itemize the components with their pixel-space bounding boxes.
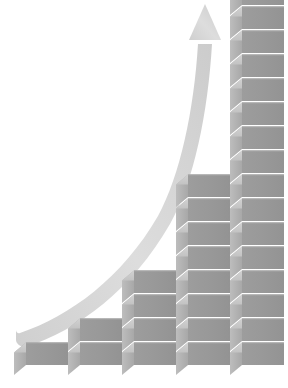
cube-front-face: [242, 223, 284, 246]
cube-front-highlight: [242, 247, 284, 248]
cube-front-highlight: [242, 55, 284, 56]
cube-front-face: [242, 295, 284, 318]
cube-front-highlight: [80, 343, 122, 344]
cube-front-face: [242, 151, 284, 174]
cube-front-highlight: [242, 79, 284, 80]
cube-front-highlight: [188, 199, 230, 200]
cube-front-face: [188, 247, 230, 270]
cube-front-face: [188, 295, 230, 318]
cube-front-face: [80, 343, 122, 366]
cube-front-highlight: [134, 343, 176, 344]
cube-front-highlight: [188, 175, 230, 176]
cube-front-highlight: [134, 271, 176, 272]
cube-front-face: [26, 343, 68, 366]
cube-front-highlight: [188, 271, 230, 272]
cube-front-face: [242, 271, 284, 294]
cube-front-highlight: [134, 319, 176, 320]
cube-front-face: [242, 103, 284, 126]
chart-canvas: [0, 0, 288, 388]
cube-front-face: [188, 175, 230, 198]
cube-front-highlight: [242, 223, 284, 224]
cube-front-face: [242, 79, 284, 102]
cube-front-highlight: [188, 343, 230, 344]
cube-front-face: [242, 343, 284, 366]
cube-front-highlight: [242, 343, 284, 344]
cube-stack: [122, 271, 176, 376]
cube-front-face: [188, 223, 230, 246]
cube-front-highlight: [134, 295, 176, 296]
cube-front-highlight: [242, 7, 284, 8]
cube-front-face: [134, 295, 176, 318]
cube-front-highlight: [188, 319, 230, 320]
cube-front-highlight: [188, 223, 230, 224]
cube-front-highlight: [242, 319, 284, 320]
cube-front-face: [134, 271, 176, 294]
cube-front-highlight: [80, 319, 122, 320]
cube-front-highlight: [242, 295, 284, 296]
isometric-cube-bar-chart: [0, 0, 288, 388]
cube-front-face: [242, 247, 284, 270]
cube-front-face: [188, 319, 230, 342]
cube-front-highlight: [242, 151, 284, 152]
cube-front-face: [242, 0, 284, 5]
cube-front-highlight: [242, 31, 284, 32]
cube-front-face: [134, 319, 176, 342]
cube-front-highlight: [242, 127, 284, 128]
cube-front-face: [188, 199, 230, 222]
cube-front-face: [242, 319, 284, 342]
cube-front-face: [242, 7, 284, 30]
cube-front-face: [188, 343, 230, 366]
cube-front-highlight: [242, 271, 284, 272]
cube-front-face: [134, 343, 176, 366]
cube-front-face: [242, 31, 284, 54]
cube-front-highlight: [188, 247, 230, 248]
cube-front-highlight: [188, 295, 230, 296]
cube-front-face: [242, 175, 284, 198]
cube-front-face: [80, 319, 122, 342]
cube-front-highlight: [26, 343, 68, 344]
cube-front-face: [242, 127, 284, 150]
cube-front-highlight: [242, 103, 284, 104]
cube-front-face: [242, 55, 284, 78]
cube-front-face: [188, 271, 230, 294]
cube-front-face: [242, 199, 284, 222]
cube-front-highlight: [242, 199, 284, 200]
cube-front-highlight: [242, 175, 284, 176]
